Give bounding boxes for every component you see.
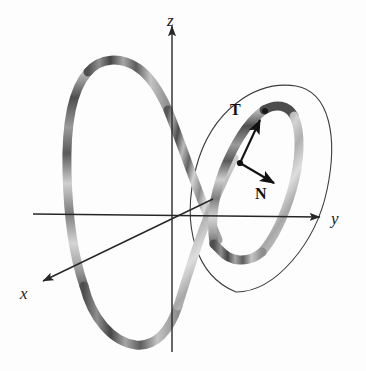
- tangent-vector-label: T: [230, 102, 241, 118]
- curve-segment-top-crest: [88, 60, 168, 110]
- curve-segment-right-crest: [264, 106, 294, 116]
- curve-segment-left-limb: [67, 72, 88, 286]
- curve-point-marker: [237, 160, 243, 166]
- curve-segment-right-bottom: [214, 244, 262, 260]
- space-curve-tube: [67, 60, 299, 345]
- curve-segment-bottom-arc: [84, 286, 178, 345]
- space-curve-figure: [0, 0, 366, 371]
- curve-segment-rising-limb: [178, 158, 234, 306]
- y-axis-label: y: [331, 210, 339, 227]
- curve-crest-marker: [262, 108, 268, 114]
- figure-container: z y x T N: [0, 0, 366, 371]
- normal-vector-label: N: [255, 186, 267, 202]
- normal-vector-N: [240, 163, 274, 183]
- z-axis-label: z: [167, 12, 174, 29]
- curve-segment-right-side: [262, 116, 299, 252]
- x-axis-label: x: [20, 285, 28, 302]
